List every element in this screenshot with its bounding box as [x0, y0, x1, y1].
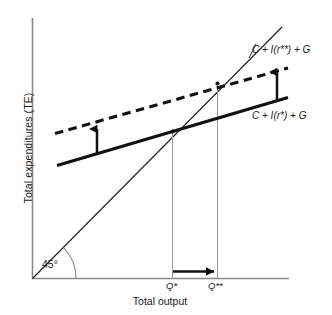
x-tick-label-q-star: Q* — [166, 280, 177, 291]
keynesian-cross-figure: Total expenditures (TE) Total output 45°… — [0, 0, 332, 315]
y-axis-title: Total expenditures (TE) — [22, 73, 34, 223]
x-axis-title: Total output — [32, 295, 288, 307]
x-tick-label-q-star-star: Q** — [208, 280, 223, 291]
equilibrium-point-shifted — [215, 81, 219, 85]
curve-label-shifted: C + I(r**) + G — [252, 44, 310, 55]
forty-five-degree-line — [33, 27, 283, 279]
angle-arc — [64, 248, 77, 279]
expenditure-line-shifted — [55, 68, 288, 134]
guide-lines — [173, 84, 218, 279]
forty-five-degree-label: 45° — [42, 258, 58, 270]
equilibrium-point-initial — [170, 129, 174, 133]
curve-label-initial: C + I(r*) + G — [252, 110, 306, 121]
